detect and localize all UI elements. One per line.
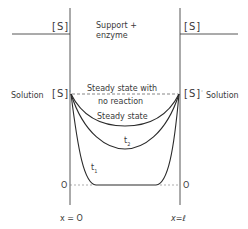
zero-left-label: O: [61, 181, 67, 190]
support-enzyme-label-line2: enzyme: [96, 31, 128, 40]
diffusion-reaction-diagram: [S] [S] Support + enzyme Solution [S]' […: [0, 0, 248, 229]
x-zero-label: x = O: [60, 214, 83, 223]
interface-concentration-right-label: [S]': [184, 88, 204, 99]
zero-right-label: O: [183, 181, 189, 190]
no-reaction-label-line1: Steady state with: [87, 84, 157, 93]
bulk-concentration-right-label: [S]: [184, 21, 201, 32]
solution-left-label: Solution: [11, 91, 44, 100]
interface-concentration-left-label: [S]': [52, 88, 72, 99]
support-enzyme-label-line1: Support +: [96, 21, 137, 30]
solution-right-label: Solution: [206, 91, 239, 100]
t1-label: t1: [91, 163, 97, 176]
x-length-label: x=ℓ: [171, 214, 186, 223]
t2-label: t2: [124, 136, 130, 149]
bulk-concentration-left-label: [S]: [52, 21, 69, 32]
no-reaction-label-line2: no reaction: [98, 97, 143, 106]
steady-state-label: Steady state: [97, 112, 148, 121]
